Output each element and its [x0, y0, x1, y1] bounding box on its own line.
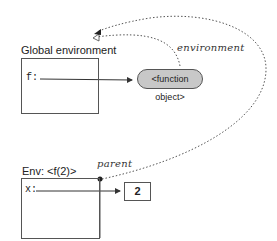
local-frame-title: Env: <f(2)> [22, 165, 76, 177]
environment-diagram: Global environment f: <function object> … [0, 0, 277, 241]
global-frame-title: Global environment [21, 44, 116, 56]
environment-annotation: environment [177, 42, 245, 53]
binding-name-x: x: [25, 184, 37, 195]
value-box-2: 2 [124, 182, 151, 201]
parent-annotation: parent [97, 158, 132, 169]
global-frame [21, 58, 99, 114]
parent-arrowhead [94, 29, 101, 35]
environment-arrowhead [93, 34, 99, 41]
binding-name-f: f: [26, 72, 38, 83]
function-object: <function object> [137, 69, 203, 89]
